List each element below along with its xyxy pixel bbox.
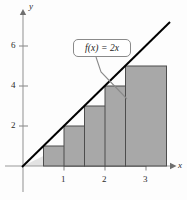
y-tick-label-4: 4 [11, 81, 16, 90]
function-label-text: f(x) = 2x [85, 43, 119, 53]
y-tick-label-6: 6 [11, 41, 16, 50]
figure-graph-of-f-x-equals-2x: f(x) = 2x 6 4 2 1 2 3 y x [0, 0, 187, 200]
x-tick-label-1: 1 [61, 175, 66, 184]
y-axis-label: y [29, 2, 33, 11]
x-tick-label-2: 2 [102, 175, 107, 184]
y-tick-label-2: 2 [11, 121, 16, 130]
function-label-callout: f(x) = 2x [73, 39, 131, 57]
bar-5 [126, 66, 167, 166]
plot-area [0, 0, 187, 200]
x-tick-label-3: 3 [143, 175, 148, 184]
x-axis-arrow-icon [170, 163, 177, 169]
y-axis-arrow-icon [20, 9, 26, 15]
riemann-bars [44, 66, 167, 166]
x-axis-label: x [178, 161, 182, 170]
